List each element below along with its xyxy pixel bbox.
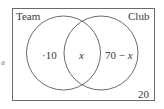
intersection-region-value: x	[79, 50, 84, 61]
club-only-region-value: 70 − x	[105, 50, 133, 61]
club-only-constant: 70 −	[105, 49, 128, 61]
club-only-variable: x	[128, 49, 133, 61]
team-only-region-value: ·10	[42, 50, 57, 61]
club-set-label: Club	[128, 11, 149, 22]
outside-region-value: 20	[138, 89, 149, 100]
team-set-label: Team	[16, 11, 40, 22]
cropped-text-fragment: a	[1, 57, 5, 68]
